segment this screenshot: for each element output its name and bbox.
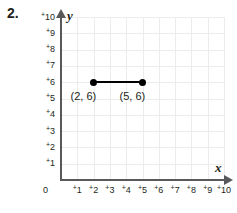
y-tick-label: +5 — [33, 94, 55, 103]
y-tick-label: +6 — [33, 78, 55, 87]
y-tick-label: +1 — [33, 159, 55, 168]
y-tick-label: +7 — [33, 61, 55, 70]
gridline-horizontal — [61, 66, 225, 67]
x-axis-label: x — [215, 160, 222, 176]
y-tick-label: +3 — [33, 127, 55, 136]
gridline-horizontal — [61, 131, 225, 132]
x-axis-line — [60, 179, 226, 181]
problem-number: 2. — [7, 6, 19, 20]
plotted-point — [90, 79, 97, 86]
gridline-horizontal — [61, 17, 225, 18]
y-tick-label: +2 — [33, 143, 55, 152]
coordinate-plane-figure: 2. y x 0 +1+2+3+4+5+6+7+8+9+10 +1+2+3+4+… — [0, 0, 237, 213]
y-tick-label: +10 — [33, 13, 55, 22]
x-tick-label: +10 — [213, 186, 235, 195]
x-axis-arrow-icon — [224, 175, 233, 185]
line-segment — [94, 81, 143, 83]
y-axis-line — [60, 17, 62, 181]
y-tick-label: +8 — [33, 45, 55, 54]
gridline-horizontal — [61, 164, 225, 165]
y-tick-label: +4 — [33, 110, 55, 119]
y-tick-label: +9 — [33, 29, 55, 38]
gridline-horizontal — [61, 50, 225, 51]
plotted-point — [139, 79, 146, 86]
gridline-horizontal — [61, 147, 225, 148]
gridline-horizontal — [61, 33, 225, 34]
point-coordinate-label: (2, 6) — [71, 91, 97, 102]
gridline-horizontal — [61, 115, 225, 116]
origin-tick-label: 0 — [43, 186, 48, 195]
point-coordinate-label: (5, 6) — [120, 91, 146, 102]
y-axis-label: y — [67, 8, 73, 24]
y-axis-arrow-icon — [56, 9, 66, 18]
